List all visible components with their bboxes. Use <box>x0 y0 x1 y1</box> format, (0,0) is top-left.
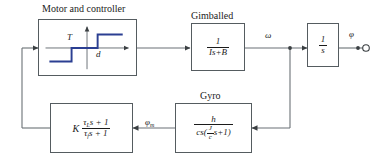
block-gimballed[interactable]: 1 Is+B <box>191 23 245 71</box>
gyro-numerator: h <box>209 115 218 125</box>
compensator-num-plus: + <box>96 117 102 127</box>
gyro-inner-num-J: J <box>207 125 214 133</box>
junction-dot-omega <box>288 46 292 50</box>
block-integrator[interactable]: 1 s <box>307 23 339 67</box>
relay-nonlinearity-plot: T d <box>39 20 136 75</box>
block-gyro[interactable]: h cs( J c s+1) <box>175 103 252 153</box>
gimballed-numerator: 1 <box>214 37 223 47</box>
block-motor-and-controller[interactable]: T d <box>38 19 137 76</box>
gyro-den-close-paren: ) <box>228 127 231 137</box>
transfer-function-gyro: h cs( J c s+1) <box>194 115 233 142</box>
block-diagram-canvas: Motor and controller Gimballed Gyro T d … <box>0 0 385 162</box>
gimballed-den-B: B <box>222 47 228 57</box>
compensator-numerator: τLs + 1 <box>81 118 110 128</box>
gimballed-block-caption: Gimballed <box>191 10 233 21</box>
gyro-den-cs: cs <box>196 127 204 137</box>
block-compensator[interactable]: K τLs + 1 τfs + 1 <box>50 103 133 153</box>
signal-label-phi: φ <box>349 29 354 39</box>
compensator-num-one: 1 <box>104 117 109 127</box>
transfer-function-integrator: 1 s <box>319 35 328 55</box>
axis-label-torque: T <box>67 32 72 42</box>
signal-label-omega: ω <box>265 30 271 40</box>
integrator-numerator: 1 <box>319 35 328 45</box>
transfer-function-compensator: K τLs + 1 τfs + 1 <box>73 118 111 139</box>
output-terminal-phi <box>363 45 370 52</box>
compensator-gain-K: K <box>73 123 80 134</box>
gyro-denominator: cs( J c s+1) <box>194 124 233 141</box>
signal-label-phi-m: φm <box>145 117 154 128</box>
compensator-den-plus: + <box>95 128 101 138</box>
transfer-function-gimballed: 1 Is+B <box>207 37 229 57</box>
motor-block-caption: Motor and controller <box>42 3 125 14</box>
gyro-block-caption: Gyro <box>200 90 221 101</box>
phi-m-subscript: m <box>150 122 154 128</box>
compensator-num-s: s <box>90 117 94 127</box>
output-dot-phi <box>356 46 360 50</box>
compensator-denominator: τfs + 1 <box>82 128 110 139</box>
axis-label-d: d <box>96 49 101 59</box>
gimballed-denominator: Is+B <box>207 47 229 58</box>
compensator-den-one: 1 <box>103 128 108 138</box>
compensator-den-s: s <box>89 128 93 138</box>
integrator-denominator: s <box>319 45 327 56</box>
gyro-inner-den-c: c <box>207 133 214 142</box>
